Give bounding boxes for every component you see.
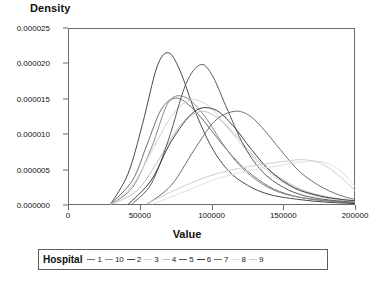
legend-swatch-icon [197, 259, 205, 261]
x-tick-label: 100000 [198, 211, 225, 220]
legend-entry[interactable]: 1 [87, 255, 101, 264]
y-tick-label: 0.000015 [17, 94, 50, 103]
legend-swatch-icon [179, 259, 187, 261]
x-tick-mark [212, 205, 213, 210]
legend-label: 2 [137, 255, 141, 264]
x-tick-mark [68, 205, 69, 210]
legend-label: 3 [154, 255, 158, 264]
density-chart: Density 0.0000000.0000050.0000100.000015… [0, 0, 374, 289]
x-tick-label: 200000 [342, 211, 369, 220]
legend-entry[interactable]: 2 [127, 255, 141, 264]
x-tick-mark [283, 205, 284, 210]
legend-swatch-icon [214, 259, 222, 261]
legend-swatch-icon [87, 259, 95, 261]
density-curve [128, 108, 355, 205]
legend-label: 6 [207, 255, 211, 264]
legend-entry[interactable]: 4 [162, 255, 176, 264]
legend-entry[interactable]: 9 [249, 255, 263, 264]
density-curve [111, 98, 355, 204]
y-tick-label: 0.000000 [17, 201, 50, 210]
x-tick-label: 150000 [270, 211, 297, 220]
legend-swatch-icon [162, 259, 170, 261]
y-tick-label: 0.000020 [17, 59, 50, 68]
x-tick-mark [140, 205, 141, 210]
legend-label: 9 [259, 255, 263, 264]
legend-label: 1 [97, 255, 101, 264]
x-tick-mark [355, 205, 356, 210]
y-axis-ticks: 0.0000000.0000050.0000100.0000150.000020… [0, 0, 64, 289]
legend-swatch-icon [144, 259, 152, 261]
legend-label: 7 [224, 255, 228, 264]
legend-entry[interactable]: 3 [144, 255, 158, 264]
y-tick-label: 0.000005 [17, 165, 50, 174]
legend-swatch-icon [249, 259, 257, 261]
legend-entry[interactable]: 8 [232, 255, 246, 264]
legend-label: 5 [189, 255, 193, 264]
legend-swatch-icon [127, 259, 135, 261]
density-curve [111, 53, 355, 204]
legend-title: Hospital [43, 254, 82, 265]
density-curves [68, 28, 355, 205]
y-tick-label: 0.000010 [17, 130, 50, 139]
legend-label: 8 [242, 255, 246, 264]
legend-entry[interactable]: 6 [197, 255, 211, 264]
legend-entry-list: 11023456789 [84, 255, 263, 264]
x-axis-title: Value [0, 228, 374, 240]
legend-label: 10 [115, 255, 124, 264]
legend-swatch-icon [105, 259, 113, 261]
legend-entry[interactable]: 5 [179, 255, 193, 264]
legend-swatch-icon [232, 259, 240, 261]
y-tick-label: 0.000025 [17, 24, 50, 33]
legend-label: 4 [172, 255, 176, 264]
x-tick-label: 50000 [129, 211, 151, 220]
legend-entry[interactable]: 7 [214, 255, 228, 264]
legend-entry[interactable]: 10 [105, 255, 124, 264]
x-tick-label: 0 [66, 211, 70, 220]
legend[interactable]: Hospital 11023456789 [38, 249, 328, 270]
